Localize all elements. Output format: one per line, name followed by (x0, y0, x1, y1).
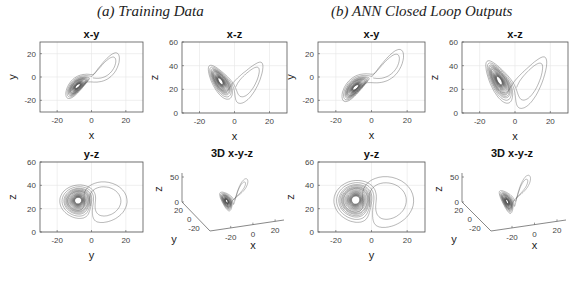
y-tick-label: 0 (174, 109, 179, 118)
y-tick-label: 20 (27, 205, 36, 214)
y-axis-label: y (171, 233, 177, 245)
x-axis-label: x (532, 239, 538, 251)
y-axis-label: y (284, 74, 296, 80)
x-tick-label: 0 (369, 236, 374, 245)
y-tick-label: 20 (449, 85, 458, 94)
y-tick-label: 40 (449, 62, 458, 71)
trajectory-line (499, 175, 530, 213)
y-tick-label: 0 (467, 215, 472, 224)
y-tick-label: 20 (174, 206, 183, 215)
chart-5: -200200204060x-zxz (428, 28, 568, 142)
trajectory-line (60, 182, 127, 223)
z-axis-label: z (152, 186, 164, 192)
x-axis-label: y (89, 249, 95, 261)
x-axis-label: x (250, 239, 256, 251)
figure: -20020-20020x-yxy-200200204060x-zxz-2002… (0, 0, 585, 283)
chart-2: -200200204060y-zyz (6, 148, 143, 261)
y-tick-label: 40 (27, 181, 36, 190)
y-tick-label: 0 (32, 228, 37, 237)
x-tick-label: 0 (369, 116, 374, 125)
chart-1: -200200204060x-zxz (148, 28, 287, 142)
y-axis-label: z (148, 75, 160, 81)
y-tick-label: -20 (188, 224, 200, 233)
chart-0: -20020-20020x-yxy (6, 28, 143, 141)
x-tick-label: -20 (194, 117, 206, 126)
chart-title: y-z (364, 148, 380, 160)
x-axis-label: x (512, 130, 518, 142)
chart-title: 3D x-y-z (211, 147, 254, 159)
x-tick-label: 0 (532, 230, 537, 239)
x-tick-label: -20 (474, 117, 486, 126)
z-tick-label: 50 (450, 173, 459, 182)
chart-3d-3: 050200-20-200203D x-y-zzyx (152, 147, 284, 251)
chart-title: 3D x-y-z (491, 147, 534, 159)
y-tick-label: 0 (32, 73, 37, 82)
chart-4: -20020-20020x-yxy (284, 28, 425, 141)
y-axis-label: y (6, 74, 18, 80)
y-tick-label: 20 (169, 85, 178, 94)
chart-3d-7: 050200-20-200203D x-y-zzyx (432, 147, 566, 251)
x-axis-label: x (232, 130, 238, 142)
y-tick-label: 40 (169, 62, 178, 71)
x-tick-label: -20 (51, 116, 63, 125)
x-axis-label: y (369, 249, 375, 261)
trajectory-line (208, 62, 263, 103)
x-tick-label: 0 (89, 116, 94, 125)
x-tick-label: 20 (546, 117, 555, 126)
x-tick-label: 0 (251, 230, 256, 239)
x-tick-label: -20 (330, 116, 342, 125)
x-tick-label: -20 (225, 233, 237, 242)
x-tick-label: -20 (51, 236, 63, 245)
x-axis-label: x (89, 129, 95, 141)
y-tick-label: 0 (310, 73, 315, 82)
x-tick-label: 0 (513, 117, 518, 126)
chart-title: x-z (507, 28, 523, 40)
y-axis-label: z (428, 75, 440, 81)
x-tick-label: 20 (121, 116, 130, 125)
x-tick-label: 20 (553, 226, 562, 235)
y-tick-label: -20 (24, 96, 36, 105)
trajectory-line (486, 57, 547, 109)
y-tick-label: 20 (305, 205, 314, 214)
y-tick-label: 0 (454, 109, 459, 118)
x-tick-label: -20 (506, 233, 518, 242)
x-tick-label: 20 (121, 236, 130, 245)
x-tick-label: 20 (271, 226, 280, 235)
y-tick-label: 40 (305, 181, 314, 190)
y-tick-label: 20 (305, 50, 314, 59)
y-tick-label: 0 (187, 215, 192, 224)
y-tick-label: 60 (169, 38, 178, 47)
y-tick-label: -20 (302, 96, 314, 105)
y-axis-label: z (6, 194, 18, 200)
y-axis-label: z (284, 194, 296, 200)
x-tick-label: -20 (330, 236, 342, 245)
y-axis-label: y (451, 233, 457, 245)
trajectory-line (342, 49, 404, 101)
y-tick-label: 20 (27, 50, 36, 59)
trajectory-line (334, 177, 414, 228)
z-tick-label: 50 (170, 173, 179, 182)
y-tick-label: -20 (469, 224, 481, 233)
x-tick-label: 0 (232, 117, 237, 126)
chart-6: -200200204060y-zyz (284, 148, 425, 261)
trajectory-line (220, 179, 248, 211)
trajectory-line (66, 53, 120, 99)
y-tick-label: 60 (305, 158, 314, 167)
chart-title: x-z (227, 28, 243, 40)
x-tick-label: 0 (89, 236, 94, 245)
y-tick-label: 0 (310, 228, 315, 237)
y-tick-label: 60 (27, 158, 36, 167)
x-tick-label: 20 (403, 116, 412, 125)
x-tick-label: 20 (265, 117, 274, 126)
z-axis-label: z (432, 186, 444, 192)
x-axis-label: x (369, 129, 375, 141)
chart-title: y-z (84, 148, 100, 160)
chart-title: x-y (364, 28, 381, 40)
y-tick-label: 60 (449, 38, 458, 47)
y-tick-label: 20 (454, 206, 463, 215)
chart-title: x-y (84, 28, 101, 40)
x-tick-label: 20 (403, 236, 412, 245)
